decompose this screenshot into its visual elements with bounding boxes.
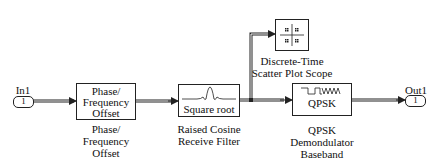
raised-cosine-filter-block[interactable]: Square root (178, 84, 240, 117)
qpsk-caption-line2: Demondulator (282, 136, 362, 148)
filter-caption-line2: Receive Filter (169, 135, 249, 147)
out1-port[interactable]: 1 (405, 95, 426, 107)
simulink-diagram: In1 1 Phase/ Frequency Offset Phase/ Fre… (0, 0, 438, 166)
phase-caption-line3: Offset (66, 147, 146, 159)
qpsk-caption-line1: QPSK (282, 124, 362, 136)
phase-caption-line1: Phase/ (66, 123, 146, 135)
in1-number: 1 (14, 96, 33, 107)
branch-point (249, 98, 253, 102)
scope-caption-line2: Scatter Plot Scope (245, 67, 339, 79)
qpsk-block-text: QPSK (293, 97, 351, 109)
filter-caption-line1: Raised Cosine (169, 123, 249, 135)
phase-frequency-offset-block[interactable]: Phase/ Frequency Offset (76, 83, 136, 120)
in1-port[interactable]: 1 (13, 96, 34, 108)
scope-caption-line1: Discrete-Time (252, 55, 332, 67)
qpsk-demodulator-block[interactable]: QPSK (292, 83, 352, 116)
phase-caption-line2: Frequency (66, 135, 146, 147)
constellation-icon (276, 20, 308, 50)
phase-block-line3: Offset (77, 107, 135, 119)
in1-label: In1 (10, 84, 36, 96)
sinc-pulse-icon (179, 85, 239, 105)
waveform-icon (293, 84, 351, 98)
scatter-plot-scope-block[interactable] (275, 19, 309, 51)
qpsk-caption-line3: Baseband (282, 148, 362, 160)
out1-number: 1 (406, 95, 425, 106)
filter-block-text: Square root (179, 103, 239, 115)
